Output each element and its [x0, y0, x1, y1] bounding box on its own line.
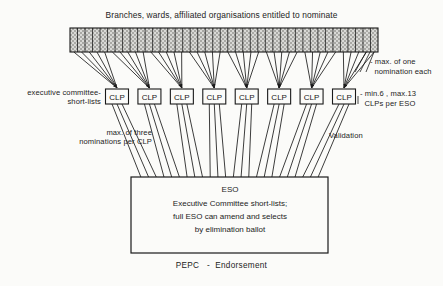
- annotation-min-max-clps: - min.6 , max.13 CLPs per ESO: [360, 89, 442, 108]
- clp-node-label: CLP: [331, 93, 357, 102]
- clp-node-label: CLP: [299, 93, 325, 102]
- clp-node-label: CLP: [169, 93, 195, 102]
- clp-node-label: CLP: [104, 93, 130, 102]
- eso-description-line-2: full ESO can amend and selects: [133, 212, 327, 221]
- annotation-max-one-nomination: - max. of one nomination each: [370, 57, 442, 76]
- clp-node-label: CLP: [266, 93, 292, 102]
- annotation-exec-committee-shortlists: executive committee- short-lists: [13, 88, 101, 107]
- clp-node-label: CLP: [201, 93, 227, 102]
- nomination-arrows-to-clp: [74, 52, 374, 88]
- annotation-validation: Validation: [329, 131, 389, 141]
- clp-node-label: CLP: [136, 93, 162, 102]
- annotation-max-three-nominations: max. of three nominations per CLP: [40, 128, 152, 147]
- footer-pepc-endorsement: PEPC - Endorsement: [0, 261, 443, 271]
- nominating-bodies-bar: [70, 28, 378, 52]
- eso-title: ESO: [133, 185, 327, 194]
- eso-description-line-3: by elimination ballot: [133, 225, 327, 234]
- clp-node-label: CLP: [234, 93, 260, 102]
- page-title: Branches, wards, affiliated organisation…: [0, 11, 443, 21]
- nomination-flow-diagram: Branches, wards, affiliated organisation…: [0, 0, 443, 286]
- eso-description-line-1: Executive Committee short-lists;: [133, 199, 327, 208]
